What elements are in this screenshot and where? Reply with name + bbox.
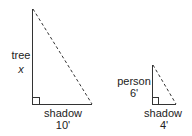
person-shadow-label: shadow — [143, 107, 183, 119]
person-height-value: 6' — [124, 87, 144, 99]
tree-shadow-label: shadow — [40, 107, 86, 119]
tree-hypotenuse-dashed — [33, 9, 92, 104]
tree-label: tree — [11, 49, 31, 61]
tree-height-value: x — [14, 63, 28, 75]
right-angle-marker — [153, 98, 159, 105]
tree-triangle — [32, 9, 92, 105]
person-shadow-value: 4' — [154, 119, 174, 131]
tree-shadow-value: 10' — [50, 119, 76, 131]
person-label: person — [117, 75, 151, 87]
right-angle-marker — [33, 98, 40, 105]
person-hypotenuse-dashed — [153, 65, 176, 104]
person-triangle — [152, 65, 176, 105]
